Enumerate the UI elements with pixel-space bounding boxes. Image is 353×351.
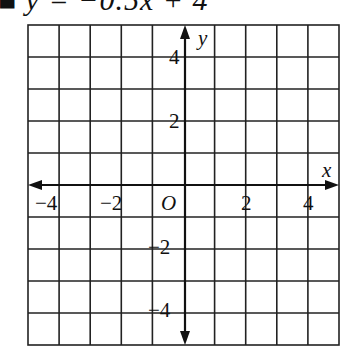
x-axis-label: x	[321, 160, 332, 181]
axes	[34, 31, 333, 339]
arrow-down-icon	[180, 331, 190, 345]
origin-label: O	[160, 193, 177, 214]
y-tick-2: 2	[168, 111, 181, 132]
x-tick-2: 2	[240, 193, 253, 214]
arrow-up-icon	[180, 25, 190, 39]
y-tick-4: 4	[168, 47, 181, 68]
x-tick-minus-2: −2	[99, 193, 123, 214]
x-tick-4: 4	[302, 193, 315, 214]
y-axis-label: y	[197, 28, 208, 49]
y-tick-minus-2: −2	[147, 237, 171, 258]
y-tick-minus-4: −4	[147, 300, 171, 321]
x-tick-minus-4: −4	[34, 193, 58, 214]
arrow-left-icon	[28, 180, 42, 190]
